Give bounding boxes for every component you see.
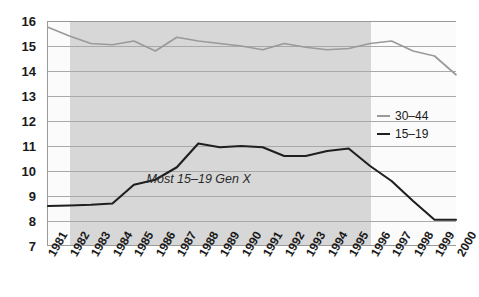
- y-tick-label: 13: [22, 89, 36, 104]
- legend-swatch-30-44: [377, 115, 390, 117]
- y-tick-label: 12: [22, 114, 36, 129]
- y-tick-label: 11: [22, 139, 36, 154]
- y-tick-label: 7: [29, 239, 36, 254]
- legend-item-15-19: 15–19: [377, 126, 428, 141]
- y-tick-label: 10: [22, 164, 36, 179]
- y-tick-label: 14: [22, 64, 36, 79]
- series-line-30-44: [48, 27, 456, 75]
- y-axis: 16151413121110987: [0, 0, 44, 297]
- y-tick-label: 9: [29, 189, 36, 204]
- series-line-15-19: [48, 144, 456, 220]
- x-axis: 1981198219831984198519861987198819891990…: [47, 246, 456, 297]
- y-tick-label: 15: [22, 39, 36, 54]
- legend-label-30-44: 30–44: [395, 109, 428, 123]
- legend-item-30-44: 30–44: [377, 108, 428, 123]
- chart-legend: 30–44 15–19: [377, 108, 428, 141]
- y-tick-label: 16: [22, 14, 36, 29]
- legend-label-15-19: 15–19: [395, 127, 428, 141]
- y-tick-label: 8: [29, 214, 36, 229]
- x-tick-label: 2000: [454, 229, 479, 259]
- annotation-gen-x: Most 15–19 Gen X: [147, 172, 251, 186]
- legend-swatch-15-19: [377, 133, 390, 135]
